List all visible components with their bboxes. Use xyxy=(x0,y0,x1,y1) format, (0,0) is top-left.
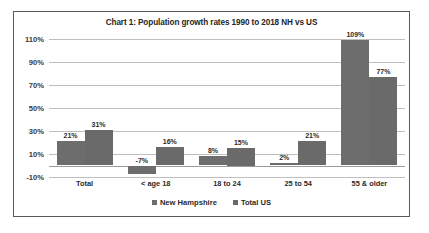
bar-group: 109%77% xyxy=(334,39,405,177)
gridline xyxy=(49,177,405,178)
x-axis-tick-label: < age 18 xyxy=(120,179,191,188)
bar xyxy=(156,147,184,165)
bar xyxy=(369,77,397,166)
legend-swatch-icon xyxy=(152,200,157,205)
legend-label: Total US xyxy=(241,198,271,207)
bar-group: 2%21% xyxy=(263,39,334,177)
plot-area: 110%90%70%50%30%10%-10% 21%31%-7%16%8%15… xyxy=(49,39,405,177)
bar-group: 21%31% xyxy=(49,39,120,177)
bar-value-label: 77% xyxy=(363,68,403,75)
bar xyxy=(341,40,369,165)
bar xyxy=(270,163,298,165)
legend-swatch-icon xyxy=(233,200,238,205)
y-axis-tick-label: 110% xyxy=(25,35,44,44)
bar xyxy=(85,130,113,166)
y-axis-tick-label: 90% xyxy=(29,58,44,67)
x-axis-tick-label: 55 & older xyxy=(334,179,405,188)
y-axis-tick-label: 50% xyxy=(29,104,44,113)
bar-value-label: 16% xyxy=(150,138,190,145)
bar-group: 8%15% xyxy=(191,39,262,177)
y-axis-tick-label: 10% xyxy=(29,150,44,159)
bar xyxy=(298,141,326,165)
bar-value-label: 15% xyxy=(221,139,261,146)
x-axis-tick-label: 25 to 54 xyxy=(263,179,334,188)
x-axis-ticks: Total< age 1818 to 2425 to 5455 & older xyxy=(49,179,405,193)
bar xyxy=(199,156,227,165)
x-axis-tick-label: 18 to 24 xyxy=(191,179,262,188)
bar xyxy=(57,141,85,165)
bar xyxy=(128,166,156,174)
x-axis-tick-label: Total xyxy=(49,179,120,188)
y-axis-tick-label: -10% xyxy=(26,173,44,182)
chart-legend: New HampshireTotal US xyxy=(14,198,409,207)
legend-item[interactable]: New Hampshire xyxy=(152,198,217,207)
bar-series-group: 21%31%-7%16%8%15%2%21%109%77% xyxy=(49,39,405,177)
bar xyxy=(227,148,255,165)
bar-value-label: 31% xyxy=(79,121,119,128)
y-axis-tick-label: 30% xyxy=(29,127,44,136)
chart-container: Chart 1: Population growth rates 1990 to… xyxy=(13,11,410,217)
bar-group: -7%16% xyxy=(120,39,191,177)
legend-label: New Hampshire xyxy=(160,198,217,207)
chart-title: Chart 1: Population growth rates 1990 to… xyxy=(14,18,409,27)
bar-value-label: 109% xyxy=(335,31,375,38)
legend-item[interactable]: Total US xyxy=(233,198,271,207)
bar-value-label: 21% xyxy=(292,132,332,139)
y-axis-tick-label: 70% xyxy=(29,81,44,90)
